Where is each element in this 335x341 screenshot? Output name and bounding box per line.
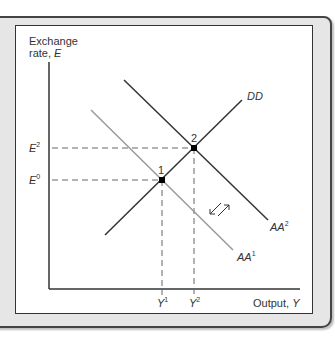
aa2-label: AA2 [269,220,289,233]
x-axis-label: Output, Y [253,297,300,309]
y2-label: Y2 [189,296,200,309]
y-axis-label-line1: Exchange [29,35,78,47]
e0-label: E0 [29,173,40,186]
aa1-label: AA1 [236,250,256,263]
y-axis-label-line2: rate, E [29,47,62,59]
dd-curve [105,100,242,235]
equilibrium-point-1 [159,177,165,183]
point-1-label: 1 [158,164,164,176]
equilibrium-point-2 [191,145,197,151]
dd-label: DD [247,90,263,102]
e2-label: E2 [29,141,40,154]
y1-label: Y1 [157,296,168,309]
point-2-label: 2 [191,132,197,144]
dd-aa-diagram: Exchange rate, E 1 2 E2 E0 Y1 Y2 Output,… [0,0,335,341]
shift-arrows-icon [210,203,229,216]
